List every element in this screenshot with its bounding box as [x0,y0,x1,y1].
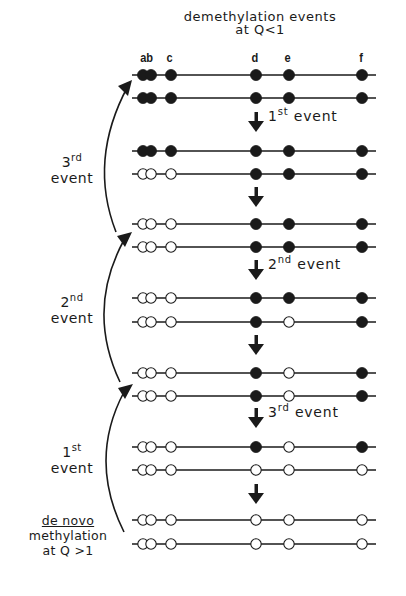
dna-strand-row [132,368,376,379]
dna-strand-row [132,539,376,549]
methylated-site-d [251,70,262,81]
unmethylated-site-e [284,442,294,452]
dna-strand-row [132,515,376,525]
dna-strand-row [132,93,376,104]
unmethylated-site-b [146,169,156,179]
methylated-site-b [146,93,157,104]
methylated-site-f [357,293,368,304]
down-arrow-icon [248,187,264,207]
unmethylated-site-c [166,368,176,378]
dna-strand-row [132,169,376,180]
side-label-1st-event: 1st event [22,440,122,476]
methylated-site-d [251,391,262,402]
methylated-site-e [284,293,295,304]
methylated-site-c [166,146,177,157]
methylated-site-f [357,169,368,180]
dna-strand-row [132,293,376,304]
dna-strand-row [132,70,376,81]
methylated-site-d [251,169,262,180]
methylated-site-e [284,169,295,180]
unmethylated-site-c [166,465,176,475]
unmethylated-site-b [146,317,156,327]
dna-strand-row [132,317,376,328]
unmethylated-site-b [146,515,156,525]
dna-strand-row [132,391,376,402]
down-arrow-icon [248,260,264,280]
methylated-site-b [146,70,157,81]
methylated-site-e [284,93,295,104]
unmethylated-site-f [357,465,367,475]
unmethylated-site-f [357,515,367,525]
dna-strands [132,70,376,550]
unmethylated-site-f [357,539,367,549]
curved-arrow-2nd-event-head [117,232,132,247]
unmethylated-site-b [146,539,156,549]
methylated-site-d [251,317,262,328]
unmethylated-site-c [166,242,176,252]
unmethylated-site-b [146,368,156,378]
event-label-2nd: 2nd event [268,254,341,272]
dna-strand-row [132,219,376,230]
side-label-de-novo-methylation: de novo methylation at Q >1 [8,513,128,558]
dna-strand-row [132,442,376,453]
methylated-site-f [357,317,368,328]
methylated-site-d [251,146,262,157]
unmethylated-site-c [166,169,176,179]
methylated-site-f [357,442,368,453]
methylated-site-e [284,219,295,230]
unmethylated-site-e [284,391,294,401]
side-label-3rd-event: 3rd event [22,150,122,186]
methylated-site-f [357,70,368,81]
methylated-site-f [357,391,368,402]
unmethylated-site-c [166,317,176,327]
unmethylated-site-e [284,317,294,327]
curved-arrow-1st-event-head [118,384,133,399]
dna-strand-row [132,146,376,157]
down-arrow-icon [248,484,264,504]
methylated-site-f [357,219,368,230]
unmethylated-site-e [284,539,294,549]
dna-strand-row [132,465,376,475]
unmethylated-site-e [284,465,294,475]
unmethylated-site-b [146,442,156,452]
methylated-site-f [357,93,368,104]
down-arrow-icon [248,335,264,355]
event-label-3rd: 3rd event [268,402,339,420]
methylated-site-d [251,242,262,253]
unmethylated-site-d [251,539,261,549]
unmethylated-site-c [166,219,176,229]
unmethylated-site-c [166,515,176,525]
methylated-site-e [284,70,295,81]
event-label-1st: 1st event [268,106,338,124]
unmethylated-site-c [166,293,176,303]
unmethylated-site-e [284,368,294,378]
unmethylated-site-d [251,465,261,475]
unmethylated-site-c [166,391,176,401]
methylated-site-c [166,70,177,81]
unmethylated-site-b [146,219,156,229]
unmethylated-site-d [251,515,261,525]
unmethylated-site-c [166,442,176,452]
methylated-site-d [251,93,262,104]
methylated-site-f [357,368,368,379]
methylated-site-d [251,442,262,453]
down-arrow-icon [248,112,264,132]
down-arrow-icon [248,408,264,428]
unmethylated-site-c [166,539,176,549]
methylated-site-b [146,146,157,157]
unmethylated-site-b [146,242,156,252]
methylated-site-c [166,93,177,104]
methylated-site-d [251,219,262,230]
methylated-site-f [357,146,368,157]
side-label-2nd-event: 2nd event [22,290,122,326]
curved-arrow-3rd-event-head [118,80,132,96]
methylated-site-e [284,146,295,157]
unmethylated-site-b [146,293,156,303]
methylated-site-d [251,368,262,379]
unmethylated-site-b [146,465,156,475]
methylated-site-f [357,242,368,253]
methylated-site-d [251,293,262,304]
dna-strand-row [132,242,376,253]
methylated-site-e [284,242,295,253]
unmethylated-site-b [146,391,156,401]
